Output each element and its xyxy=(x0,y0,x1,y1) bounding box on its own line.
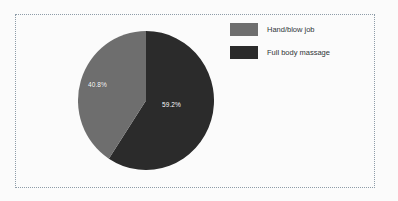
pie-chart xyxy=(78,31,214,170)
legend-label-full-body-massage: Full body massage xyxy=(267,46,330,59)
legend-swatch-icon-hand-blow-job xyxy=(230,23,258,36)
legend-swatch-icon-full-body-massage xyxy=(230,46,258,59)
legend-item-hand-blow-job[interactable]: Hand/blow job xyxy=(230,23,360,36)
chart-legend: Hand/blow job Full body massage xyxy=(230,23,360,69)
chart-container: 40.8% 59.2% Hand/blow job Full body mass… xyxy=(0,0,398,201)
legend-item-full-body-massage[interactable]: Full body massage xyxy=(230,46,360,59)
pie-slice-label-full-body-massage: 59.2% xyxy=(162,101,181,108)
pie-slice-label-hand-blow-job: 40.8% xyxy=(88,81,107,88)
legend-label-hand-blow-job: Hand/blow job xyxy=(267,23,315,36)
